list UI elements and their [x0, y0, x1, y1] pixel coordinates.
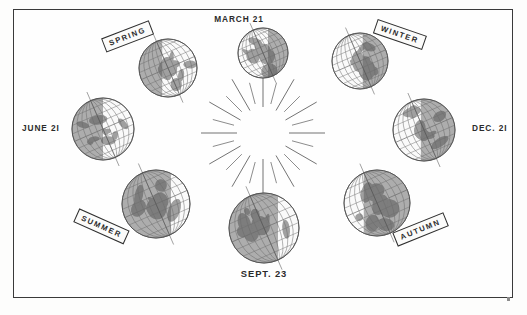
date-label-dec: DEC. 2I — [472, 123, 507, 133]
corner-mark — [507, 297, 510, 301]
seasons-diagram-figure: MARCH 21 JUNE 2I DEC. 2I SEPT. 23 SPRING… — [0, 0, 527, 315]
date-label-march: MARCH 21 — [214, 14, 264, 24]
date-label-june: JUNE 2I — [22, 123, 60, 133]
date-label-sept: SEPT. 23 — [241, 268, 287, 279]
sun-rays — [201, 71, 325, 195]
